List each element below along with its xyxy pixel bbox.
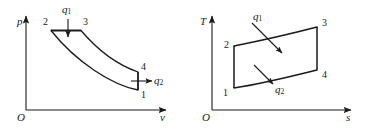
pv-origin-label: O	[17, 112, 25, 123]
pv-state-point-4: 4	[141, 62, 146, 72]
ts-x-axis-label: s	[346, 112, 350, 123]
pv-process-1-2	[51, 31, 138, 91]
pv-process-3-4	[81, 31, 138, 73]
pv-y-axis-label: p	[17, 16, 23, 27]
ts-heat-output-label: q2	[275, 84, 284, 96]
pv-heat-output-label: q2	[154, 75, 163, 87]
ts-diagram-graphic	[189, 0, 379, 132]
thermodynamic-cycle-figure: p v O 2 3 4 1 q1 q2	[0, 0, 379, 132]
ts-origin-label: O	[202, 112, 210, 123]
pv-heat-input-label: q1	[62, 4, 71, 16]
pv-diagram-panel: p v O 2 3 4 1 q1 q2	[0, 0, 190, 132]
ts-q1-arrow	[252, 23, 282, 53]
ts-state-point-3: 3	[322, 18, 327, 28]
ts-q2-arrow	[254, 65, 273, 84]
pv-state-point-2: 2	[43, 17, 48, 27]
ts-state-point-4: 4	[322, 70, 327, 80]
pv-state-point-1: 1	[141, 90, 146, 100]
ts-heat-input-label: q1	[253, 11, 262, 23]
pv-x-axis-label: v	[160, 112, 165, 123]
ts-process-2-3	[234, 27, 317, 46]
ts-y-axis-label: T	[200, 16, 206, 27]
ts-state-point-2: 2	[224, 40, 229, 50]
ts-state-point-1: 1	[223, 88, 228, 98]
pv-state-point-3: 3	[83, 17, 88, 27]
ts-diagram-panel: T s O 2 1 3 4 q1 q2	[189, 0, 379, 132]
